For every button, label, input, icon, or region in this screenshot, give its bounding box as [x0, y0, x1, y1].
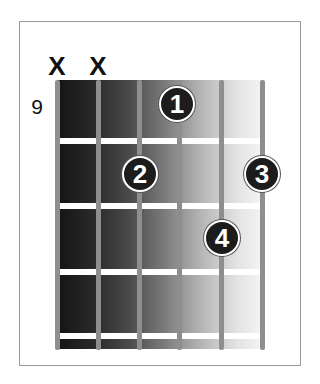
mute-x-icon: X [89, 53, 106, 79]
string-2 [219, 80, 224, 350]
string-4 [137, 80, 142, 350]
fret-line-2 [57, 203, 263, 209]
finger-dot-4: 4 [204, 220, 240, 256]
fret-line-1 [57, 138, 263, 144]
finger-dot-2: 2 [122, 156, 158, 192]
string-6 [55, 80, 60, 350]
start-fret-label: 9 [31, 96, 43, 117]
string-5 [96, 80, 101, 350]
mute-x-icon: X [48, 53, 65, 79]
finger-dot-1: 1 [159, 86, 195, 122]
fret-line-4 [57, 333, 263, 339]
fretboard [57, 80, 263, 349]
fret-line-3 [57, 269, 263, 275]
string-1 [260, 80, 265, 350]
finger-dot-3: 3 [244, 156, 280, 192]
